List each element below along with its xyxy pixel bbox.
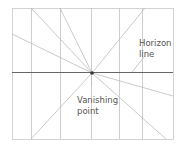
- perspective-diagram: Horizon line Vanishing point: [0, 0, 183, 149]
- ray-line: [60, 8, 92, 73]
- vanishing-point-label: Vanishing point: [77, 95, 118, 117]
- ray-line: [92, 8, 145, 73]
- ray-line: [12, 34, 92, 73]
- ray-line: [92, 73, 173, 96]
- diagram-canvas: [0, 0, 183, 149]
- ray-line: [31, 8, 92, 73]
- horizon-line-label: Horizon line: [139, 38, 172, 60]
- vanishing-point-dot: [90, 71, 94, 75]
- vertical-guides: [32, 8, 143, 139]
